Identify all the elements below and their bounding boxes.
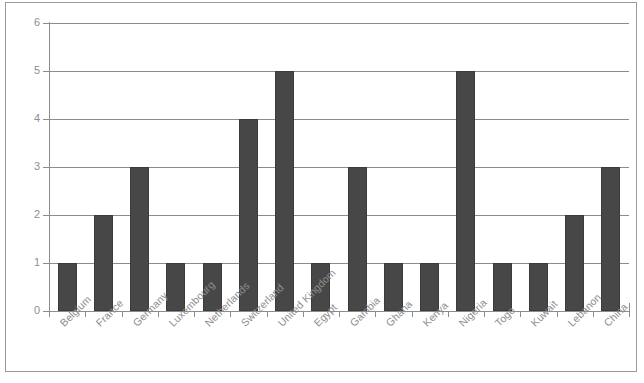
x-axis-label: Lebanon xyxy=(566,292,603,329)
x-axis-label: Togo xyxy=(493,305,517,329)
x-axis-label: Gambia xyxy=(348,295,382,329)
x-axis-label: China xyxy=(602,301,629,328)
x-axis-label: Ghana xyxy=(384,298,414,328)
x-axis-label: Nigeria xyxy=(457,297,488,328)
x-axis-label: Germany xyxy=(131,290,169,328)
x-axis-label: Belgium xyxy=(58,294,93,329)
x-axis-label: Egypt xyxy=(312,302,339,329)
x-axis-label: Kenya xyxy=(421,300,450,329)
x-axis-label: Kuwait xyxy=(529,298,559,328)
chart-frame: 0123456 BelgiumFranceGermanyLuxembourgNe… xyxy=(5,2,637,372)
x-axis-label: France xyxy=(94,297,125,328)
x-axis-labels: BelgiumFranceGermanyLuxembourgNetherland… xyxy=(6,3,644,383)
